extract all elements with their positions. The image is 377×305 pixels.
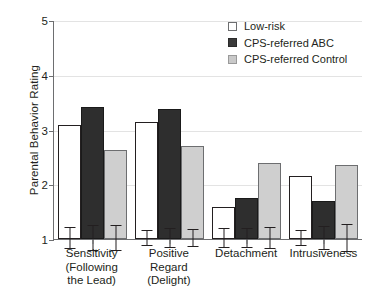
error-bar-cap-top [187,229,198,230]
error-bar-cap-top [295,230,306,231]
x-tick-mark [92,239,93,244]
bar[interactable] [289,176,312,239]
error-bar-cap-top [164,228,175,229]
bar[interactable] [235,198,258,239]
legend-item-label: CPS-referred ABC [244,37,334,49]
bar[interactable] [181,146,204,239]
legend-item[interactable]: CPS-referred Control [228,51,347,68]
error-bar-cap-top [64,227,75,228]
x-tick-mark [323,239,324,244]
x-axis-label-line: Regard [130,261,207,275]
bar-group [131,21,208,239]
gray-square-icon [228,55,237,64]
error-bar [164,228,175,248]
error-bar [218,228,229,248]
error-bar [295,230,306,245]
bar[interactable] [212,207,235,239]
chart-legend: Low-riskCPS-referred ABCCPS-referred Con… [228,18,347,68]
y-tick-mark [49,240,54,241]
x-axis-label-line: (Following [53,261,130,275]
error-bar-cap-top [318,226,329,227]
y-tick-label: 2 [42,179,48,191]
x-axis-label: PositiveRegard(Delight) [130,247,207,288]
x-axis-label-line: the Lead) [53,274,130,288]
white-square-icon [228,22,237,31]
y-tick-label: 1 [42,234,48,246]
bar[interactable] [258,163,281,239]
error-bar-stem [247,228,248,248]
bar[interactable] [104,150,127,239]
legend-item[interactable]: Low-risk [228,18,347,35]
x-axis-label-line: (Delight) [130,274,207,288]
error-bar-cap-top [87,225,98,226]
y-tick-label: 5 [42,15,48,27]
x-tick-mark [169,239,170,244]
bar-group [54,21,131,239]
error-bar-stem [301,230,302,245]
dark-square-icon [228,38,237,47]
error-bar-cap-top [141,230,152,231]
bar[interactable] [58,125,81,239]
bar[interactable] [81,107,104,239]
error-bar-stem [147,230,148,246]
x-axis-label: Intrusiveness [285,247,362,288]
error-bar [187,229,198,247]
bar[interactable] [158,109,181,239]
error-bar-cap-top [341,224,352,225]
error-bar-stem [224,228,225,248]
error-bar [64,227,75,249]
bar[interactable] [335,165,358,239]
x-axis-label-line: Detachment [208,247,285,261]
error-bar [141,230,152,246]
legend-item[interactable]: CPS-referred ABC [228,35,347,52]
error-bar-cap-top [110,225,121,226]
x-axis-label-line: Intrusiveness [285,247,362,261]
error-bar-stem [193,229,194,247]
error-bar-cap-top [218,228,229,229]
y-tick-label: 4 [42,70,48,82]
bar-chart-figure: Parental Behavior Rating 12345 Sensitivi… [0,0,377,305]
error-bar-cap-top [241,228,252,229]
error-bar-cap-bottom [295,245,306,246]
x-axis-label-line: Sensitivity [53,247,130,261]
bar[interactable] [312,201,335,239]
y-axis-title: Parental Behavior Rating [28,30,40,230]
x-axis-label: Detachment [208,247,285,288]
x-axis-label: Sensitivity(Followingthe Lead) [53,247,130,288]
error-bar-stem [70,227,71,249]
x-axis-labels: Sensitivity(Followingthe Lead)PositiveRe… [53,247,362,288]
y-tick-label: 3 [42,125,48,137]
bar[interactable] [135,122,158,239]
error-bar-cap-top [264,227,275,228]
x-axis-label-line: Positive [130,247,207,261]
error-bar-stem [170,228,171,248]
x-tick-mark [246,239,247,244]
error-bar [241,228,252,248]
legend-item-label: CPS-referred Control [244,53,347,65]
legend-item-label: Low-risk [244,20,285,32]
